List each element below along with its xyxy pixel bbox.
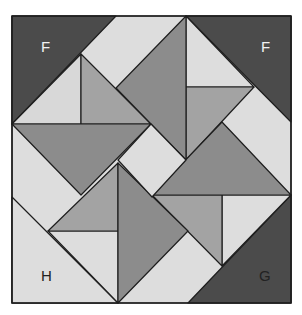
label-top-left: F — [41, 38, 50, 55]
label-bottom-right: G — [259, 267, 271, 284]
quilt-block-diagram: F F H G — [0, 0, 302, 315]
label-top-right: F — [261, 38, 270, 55]
label-bottom-left: H — [41, 267, 52, 284]
